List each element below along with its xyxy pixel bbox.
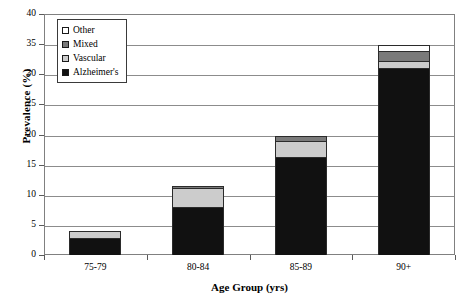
- legend-item-vascular: Vascular: [62, 51, 119, 65]
- x-tick-mark: [250, 255, 251, 260]
- bar-90+: [378, 45, 430, 255]
- legend-label: Vascular: [73, 53, 106, 63]
- y-tick-label: 40: [0, 9, 36, 19]
- chart-legend: OtherMixedVascularAlzheimer's: [57, 19, 127, 83]
- y-tick-mark: [39, 165, 44, 166]
- y-tick-label: 20: [0, 130, 36, 140]
- y-tick-mark: [39, 14, 44, 15]
- bar-75-79: [69, 231, 121, 255]
- x-tick-label: 75-79: [50, 262, 140, 272]
- bar-segment-mixed: [378, 51, 430, 61]
- bar-segment-vascular: [69, 231, 121, 238]
- y-tick-mark: [39, 44, 44, 45]
- legend-swatch-icon: [62, 41, 69, 48]
- y-tick-label: 15: [0, 160, 36, 170]
- legend-swatch-icon: [62, 27, 69, 34]
- x-tick-label: 80-84: [153, 262, 243, 272]
- legend-item-alzheimer-s: Alzheimer's: [62, 65, 119, 79]
- y-tick-mark: [39, 104, 44, 105]
- bar-segment-vascular: [275, 141, 327, 157]
- legend-item-mixed: Mixed: [62, 37, 119, 51]
- stacked-bar-chart: Prevalence (%) 0510152025303540 75-7980-…: [0, 0, 463, 301]
- bar-segment-vascular: [378, 61, 430, 68]
- y-tick-label: 30: [0, 69, 36, 79]
- bar-segment-alzheimer-s: [172, 207, 224, 255]
- y-tick-mark: [39, 225, 44, 226]
- y-tick-label: 10: [0, 190, 36, 200]
- legend-swatch-icon: [62, 55, 69, 62]
- legend-label: Mixed: [73, 39, 98, 49]
- bar-85-89: [275, 136, 327, 255]
- legend-label: Other: [73, 25, 95, 35]
- y-tick-label: 25: [0, 99, 36, 109]
- y-tick-label: 0: [0, 250, 36, 260]
- x-axis-title: Age Group (yrs): [44, 281, 455, 293]
- x-tick-mark: [455, 255, 456, 260]
- x-tick-mark: [44, 255, 45, 260]
- y-tick-mark: [39, 195, 44, 196]
- bar-80-84: [172, 186, 224, 255]
- bar-segment-alzheimer-s: [69, 238, 121, 255]
- bar-segment-alzheimer-s: [275, 157, 327, 255]
- x-tick-label: 85-89: [256, 262, 346, 272]
- x-tick-label: 90+: [359, 262, 449, 272]
- y-tick-label: 5: [0, 220, 36, 230]
- y-tick-label: 35: [0, 39, 36, 49]
- bar-segment-vascular: [172, 188, 224, 207]
- y-tick-mark: [39, 74, 44, 75]
- x-tick-mark: [147, 255, 148, 260]
- x-tick-mark: [352, 255, 353, 260]
- bar-segment-alzheimer-s: [378, 68, 430, 255]
- legend-label: Alzheimer's: [73, 67, 119, 77]
- legend-item-other: Other: [62, 23, 119, 37]
- y-tick-mark: [39, 135, 44, 136]
- legend-swatch-icon: [62, 69, 69, 76]
